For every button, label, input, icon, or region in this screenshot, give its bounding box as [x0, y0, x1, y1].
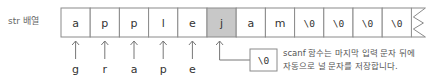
null-char-box-text: \0 — [258, 55, 270, 66]
input-char-label: g — [72, 63, 79, 76]
input-char-label: e — [189, 63, 196, 76]
callout-note-line: scanf 함수는 마지막 입력 문자 뒤에 — [283, 48, 415, 58]
input-char-label: p — [160, 63, 167, 76]
array-label: str 배열 — [8, 16, 39, 26]
array-cell-value: \0 — [333, 18, 345, 29]
array-cell-value: p — [101, 17, 108, 30]
callout-connector-arrow — [220, 41, 250, 60]
array-cell-value: m — [275, 17, 286, 30]
array-cell-value: \0 — [362, 18, 374, 29]
string-array-diagram: str 배열 applejam\0\0\0\0 grape \0 scanf 함… — [0, 0, 445, 80]
array-cell-value: \0 — [303, 18, 315, 29]
array-cell-value: j — [219, 17, 223, 30]
array-cell-value: e — [189, 17, 196, 30]
null-callout: \0 scanf 함수는 마지막 입력 문자 뒤에 자동으로 널 문자를 저장합… — [216, 41, 415, 71]
array-cell-value: \0 — [391, 18, 403, 29]
array-cell-value: a — [72, 17, 79, 30]
array-continuation-zigzag — [411, 8, 425, 37]
callout-note-line: 자동으로 널 문자를 저장합니다. — [283, 61, 398, 71]
input-arrows: grape — [72, 41, 196, 76]
array-cell-value: p — [131, 17, 138, 30]
input-char-label: a — [131, 63, 138, 76]
array-cell-value: a — [247, 17, 254, 30]
array-cell-value: l — [162, 17, 165, 30]
array-cells: applejam\0\0\0\0 — [61, 8, 411, 37]
input-char-label: r — [103, 63, 108, 76]
